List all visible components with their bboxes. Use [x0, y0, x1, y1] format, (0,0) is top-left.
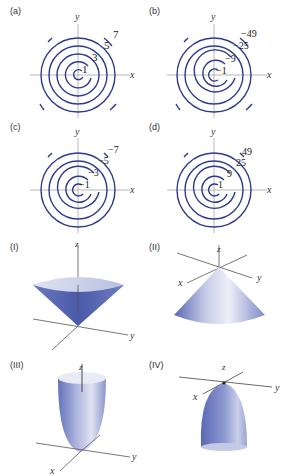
- contour-panel-d: (d) y x 1 9 25 49: [147, 118, 294, 233]
- svg-text:y: y: [210, 11, 216, 22]
- x-axis-label: x: [129, 69, 135, 80]
- svg-text:1: 1: [218, 179, 223, 190]
- panel-label-a: (a): [10, 6, 21, 16]
- svg-text:−25: −25: [233, 40, 249, 51]
- surface-panel-II: (II) z x y: [147, 233, 294, 350]
- surface-panel-III: (III) z y x: [0, 350, 147, 476]
- surface-plot-II: z x y: [147, 233, 294, 350]
- svg-text:49: 49: [242, 146, 252, 157]
- y-axis-label: y: [74, 11, 80, 22]
- svg-text:y: y: [256, 272, 262, 283]
- svg-text:x: x: [266, 69, 272, 80]
- level-label: 1: [82, 63, 88, 75]
- contour-plot-b: y x −1 −9 −25 −49: [147, 0, 294, 118]
- level-label: 3: [92, 51, 98, 63]
- contour-panel-a: (a) y x 1 3 5 7: [0, 0, 147, 118]
- svg-text:z: z: [78, 362, 83, 372]
- panel-label-c: (c): [10, 122, 21, 132]
- svg-text:x: x: [129, 184, 135, 195]
- svg-text:y: y: [74, 126, 80, 137]
- svg-text:z: z: [216, 244, 221, 254]
- contour-panel-c: (c) y x −1 −3 −5 −7: [0, 118, 147, 233]
- svg-text:y: y: [129, 330, 135, 341]
- svg-text:y: y: [274, 382, 280, 393]
- svg-text:x: x: [266, 184, 272, 195]
- svg-text:9: 9: [227, 168, 232, 179]
- panel-label-IV: (IV): [149, 360, 164, 370]
- surface-plot-IV: z x y: [147, 350, 294, 476]
- panel-label-b: (b): [149, 6, 160, 16]
- svg-text:z: z: [74, 239, 79, 249]
- svg-text:25: 25: [236, 157, 246, 168]
- svg-text:−1: −1: [79, 179, 90, 190]
- svg-text:z: z: [221, 362, 226, 372]
- panel-label-d: (d): [149, 122, 160, 132]
- surface-plot-I: z y: [0, 233, 147, 350]
- svg-text:y: y: [210, 126, 216, 137]
- panel-label-I: (I): [10, 242, 19, 252]
- svg-text:−49: −49: [241, 28, 257, 39]
- svg-text:−3: −3: [88, 167, 99, 178]
- svg-text:x: x: [49, 465, 55, 476]
- contour-plot-c: y x −1 −3 −5 −7: [0, 118, 147, 233]
- surface-panel-IV: (IV) z x y: [147, 350, 294, 476]
- svg-text:−1: −1: [216, 65, 227, 76]
- svg-text:y: y: [131, 451, 137, 462]
- panel-label-III: (III): [10, 360, 24, 370]
- svg-text:−5: −5: [98, 155, 109, 166]
- svg-text:x: x: [192, 391, 198, 402]
- contour-plot-d: y x 1 9 25 49: [147, 118, 294, 233]
- contour-panel-b: (b) y x −1 −9 −25 −49: [147, 0, 294, 118]
- level-label: 5: [104, 39, 110, 51]
- surface-panel-I: (I) z y: [0, 233, 147, 350]
- panel-label-II: (II): [149, 242, 160, 252]
- svg-text:−9: −9: [225, 53, 236, 64]
- contour-plot-a: y x 1 3 5 7: [0, 0, 147, 118]
- level-label: 7: [113, 28, 119, 40]
- svg-text:−7: −7: [108, 144, 119, 155]
- svg-text:x: x: [177, 277, 183, 288]
